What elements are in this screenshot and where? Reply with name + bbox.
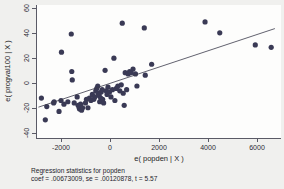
y-tick-label: 60 <box>23 4 30 12</box>
data-point <box>102 68 107 73</box>
data-point <box>143 73 148 78</box>
y-tick-label: 20 <box>23 54 30 62</box>
data-point <box>111 56 116 61</box>
data-point <box>70 77 75 82</box>
y-axis-title: e( progval100 | X ) <box>3 40 12 102</box>
data-point <box>85 105 90 110</box>
data-point <box>253 42 258 47</box>
data-point <box>65 99 70 104</box>
x-tick-label: 2000 <box>151 144 167 151</box>
data-point <box>120 21 125 26</box>
data-point <box>112 98 117 103</box>
data-point <box>59 50 64 55</box>
data-point <box>105 85 110 90</box>
y-tick-label: -20 <box>23 103 30 113</box>
y-tick-label: -40 <box>23 128 30 138</box>
data-point <box>142 25 147 30</box>
data-point <box>217 30 222 35</box>
data-point <box>39 96 44 101</box>
x-tick-label: 0 <box>108 144 112 151</box>
data-point <box>130 66 135 71</box>
caption-line-2: coef = .00673009, se = .00120878, t = 5.… <box>31 175 158 182</box>
data-point <box>134 83 139 88</box>
data-point <box>122 103 127 108</box>
x-tick-label: 6000 <box>249 144 265 151</box>
x-tick-label: -2000 <box>52 144 70 151</box>
data-point <box>108 94 113 99</box>
data-point <box>101 100 106 105</box>
data-point <box>69 69 74 74</box>
data-point <box>149 62 154 67</box>
x-tick-label: 4000 <box>200 144 216 151</box>
scatter-plot-svg: 60 40 20 0 -20 -40 e( progval100 | X ) -… <box>0 0 284 189</box>
y-tick-label: 0 <box>23 81 30 85</box>
x-axis-title: e( popden | X ) <box>134 154 184 163</box>
y-tick-label: 40 <box>23 29 30 37</box>
data-point <box>80 105 85 110</box>
data-point <box>124 87 129 92</box>
data-point <box>119 82 124 87</box>
data-point <box>269 45 274 50</box>
caption-line-1: Regression statistics for popden <box>31 167 125 175</box>
data-point <box>69 31 74 36</box>
data-point <box>43 117 48 122</box>
data-point <box>202 19 207 24</box>
data-point <box>56 109 61 114</box>
added-variable-plot: 60 40 20 0 -20 -40 e( progval100 | X ) -… <box>0 0 284 189</box>
